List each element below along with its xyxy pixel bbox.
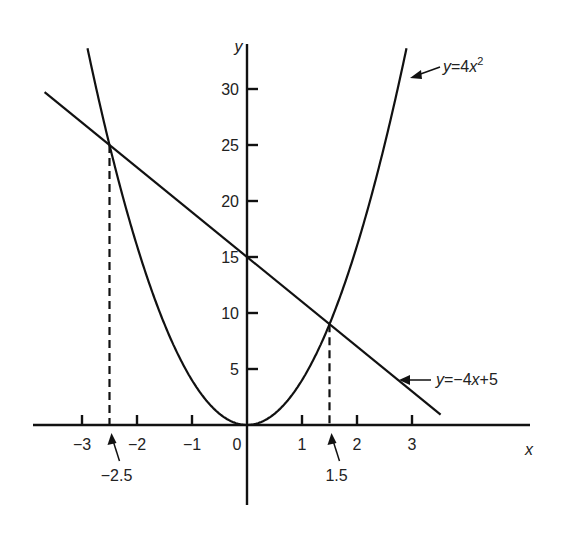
x-tick-label: 1 [298,436,307,453]
parabola-label: y=4x2 [442,55,483,75]
y-tick-label: 15 [221,249,239,266]
line-label: y=−4x+5 [435,371,498,388]
y-axis-label: y [234,38,244,55]
intersection-label: −2.5 [101,467,133,484]
x-tick-label: 2 [353,436,362,453]
chart-canvas: −3−2−1012351015202530yx−2.51.5y=4x2y=−4x… [0,0,565,534]
intersection-label: 1.5 [325,467,347,484]
y-tick-label: 20 [221,193,239,210]
arrow-head-icon [328,433,337,445]
y-tick-label: 10 [221,305,239,322]
x-tick-label: 3 [408,436,417,453]
linear-curve [45,92,441,415]
x-tick-label: −3 [73,436,91,453]
x-tick-label: −1 [183,436,201,453]
axes [33,44,530,505]
x-axis-label: x [524,441,534,458]
x-tick-label: 0 [233,436,242,453]
x-tick-label: −2 [128,436,146,453]
arrow-head-icon [108,433,117,445]
curves [45,48,441,425]
y-tick-label: 25 [221,137,239,154]
y-tick-label: 5 [230,361,239,378]
y-tick-label: 30 [221,81,239,98]
arrow-head-icon [410,70,422,79]
